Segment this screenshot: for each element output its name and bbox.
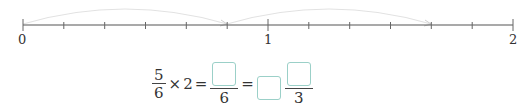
- mixed-numerator-input-box[interactable]: [287, 62, 311, 86]
- times-sign: ×: [169, 75, 182, 93]
- equals-sign: =: [241, 75, 254, 93]
- equation: 5 6 × 2 = 6 = 3: [150, 60, 315, 108]
- jump-arc-1: [23, 9, 227, 24]
- jump-arc-2: [227, 9, 431, 24]
- fraction-blank-over-six: 6: [210, 62, 238, 107]
- label-1: 1: [264, 32, 272, 47]
- label-2: 2: [509, 32, 517, 47]
- label-0: 0: [18, 32, 26, 47]
- fraction-five-sixths: 5 6: [152, 67, 166, 102]
- numerator-input-box[interactable]: [212, 62, 236, 86]
- fraction-blank-over-three: 3: [285, 62, 313, 107]
- equals-sign: =: [195, 75, 208, 93]
- whole-number-input-box[interactable]: [257, 76, 281, 100]
- multiplier: 2: [183, 75, 193, 93]
- number-line: [0, 0, 528, 60]
